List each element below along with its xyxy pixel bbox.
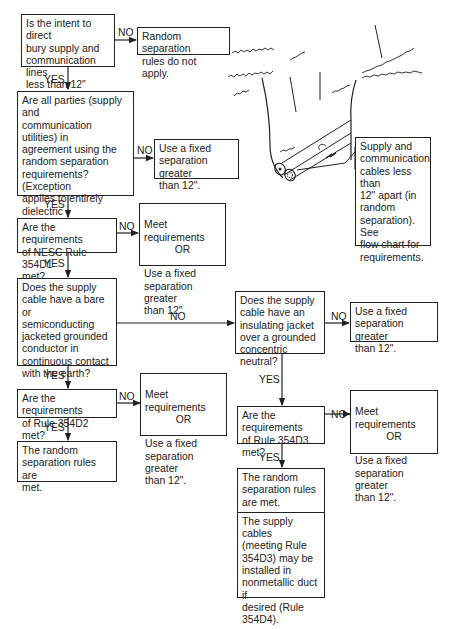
yes-label: YES [44, 199, 65, 211]
yes-label: YES [44, 258, 65, 270]
yes-label: YES [259, 452, 280, 464]
no-label: NO [331, 409, 347, 421]
or-text: OR [145, 414, 222, 426]
question-rule-354d3: Are the requirements of Rule 354D3 met? [237, 406, 325, 444]
no-label: NO [137, 145, 153, 157]
or-text: OR [355, 431, 433, 443]
outcome-random-rules-met: The random separation rules are met. [17, 441, 117, 482]
meet-requirements-text: Meet requirements [144, 219, 205, 242]
meet-requirements-text: Meet requirements [145, 389, 206, 412]
note-nonmetallic-duct: The supply cables (meeting Rule 354D3) m… [238, 512, 324, 629]
or-text: OR [144, 244, 221, 256]
yes-label: YES [44, 422, 65, 434]
outcome-stack-354d3: The random separation rules are met. The… [237, 468, 325, 598]
outcome-fixed-separation: Use a fixed separation greater than 12". [350, 302, 438, 342]
no-label: NO [170, 311, 186, 323]
outcome-rules-do-not-apply: Random separation rules do not apply. [137, 27, 230, 55]
illustration-callout: Supply and communication cables less tha… [355, 137, 431, 246]
fixed-separation-text: Use a fixed separation greater than 12". [144, 268, 196, 316]
outcome-fixed-separation: Use a fixed separation greater than 12". [154, 139, 239, 179]
no-label: NO [331, 311, 347, 323]
fixed-separation-text: Use a fixed separation greater than 12". [145, 438, 197, 486]
yes-label: YES [259, 374, 280, 386]
outcome-random-rules-met: The random separation rules are met. [238, 469, 324, 512]
no-label: NO [118, 27, 134, 39]
meet-requirements-text: Meet requirements [355, 406, 416, 429]
no-label: NO [119, 391, 135, 403]
question-nesc-354d1: Are the requirements of NESC Rule 354D1 … [17, 218, 117, 253]
question-insulating-jacket: Does the supply cable have an insulating… [235, 291, 325, 354]
question-bare-semiconducting-conductor: Does the supply cable have a bare or sem… [17, 278, 117, 366]
outcome-meet-or-fixed: Meet requirements OR Use a fixed separat… [140, 373, 227, 436]
yes-label: YES [44, 370, 65, 382]
yes-label: YES [44, 74, 65, 86]
outcome-meet-or-fixed: Meet requirements OR Use a fixed separat… [350, 390, 438, 454]
no-label: NO [119, 221, 135, 233]
fixed-separation-text: Use a fixed separation greater than 12". [355, 455, 407, 503]
question-direct-bury: Is the intent to direct bury supply and … [21, 14, 115, 67]
outcome-meet-or-fixed: Meet requirements OR Use a fixed separat… [139, 203, 226, 266]
question-all-parties-agreement: Are all parties (supply and communicatio… [17, 91, 134, 196]
question-rule-354d2: Are the requirements of Rule 354D2 met? [17, 389, 117, 418]
